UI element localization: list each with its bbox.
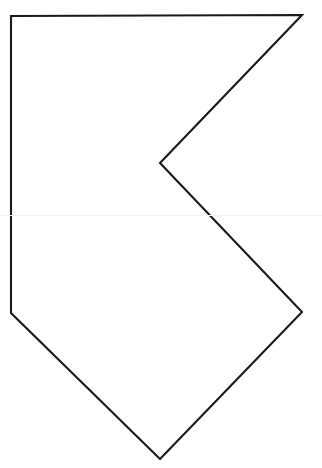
polygon-figure [0, 0, 322, 468]
drawing-canvas [0, 0, 322, 468]
page-background [0, 0, 322, 468]
